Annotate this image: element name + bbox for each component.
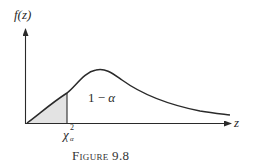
critical-value-subscript: α [70,136,74,143]
area-label: 1 − α [88,91,115,104]
chi-square-figure: f(z) z 1 − α χ 2 α Figure 9.8 [0,0,262,167]
x-axis-label: z [234,116,239,129]
y-axis-label: f(z) [14,8,31,21]
density-plot [0,0,262,167]
figure-caption: Figure 9.8 [72,149,129,162]
area-label-alpha: α [108,90,115,105]
critical-value-superscript: 2 [70,124,74,132]
critical-value-base: χ [63,127,69,142]
area-label-prefix: 1 − [88,90,108,105]
critical-value-label: χ 2 α [63,128,69,141]
